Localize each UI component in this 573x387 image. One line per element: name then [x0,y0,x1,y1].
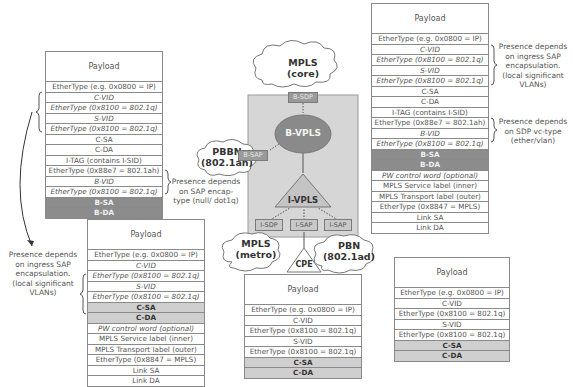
stack-row: C-VID [245,315,361,326]
stack-row: EtherType (0x8100 = 802.1q) [395,329,509,340]
frame-stack-top-left: Payload EtherType (e.g. 0x0800 = IP) C-V… [45,51,163,219]
stack-row: EtherType (0x8100 = 802.1q) [88,270,204,281]
stack-row: EtherType (0x8100 = 802.1q) [46,102,162,113]
frame-stack-top-right: Payload EtherType (e.g. 0x0800 = IP) C-V… [371,3,489,234]
stack-row: S-VID [395,319,509,330]
stack-row: EtherType (e.g. 0x0800 = IP) [372,33,488,44]
stack-row: EtherType (0x8100 = 802.1q) [245,325,361,336]
stack-row: Payload [245,275,361,304]
stack-row: C-DA [395,350,509,361]
i-sap-port-1: I-SAP [290,219,318,231]
frame-stack-bottom-center: Payload EtherType (e.g. 0x0800 = IP) C-V… [244,274,362,379]
stack-row: C-VID [372,44,488,55]
b-sdp-port: B-SDP [288,92,318,103]
stack-row: EtherType (e.g. 0x0800 = IP) [395,287,509,298]
stack-row: C-SA [88,302,204,313]
stack-row: EtherType (0x8100 = 802.1q) [46,123,162,134]
stack-row: MPLS Service label (inner) [88,333,204,344]
stack-row: S-VID [46,113,162,124]
stack-row: Link SA [88,365,204,376]
b-vpls-label: B-VPLS [275,128,331,138]
i-vpls-label: I-VPLS [280,195,326,205]
stack-row: Payload [372,4,488,33]
note-ingress-sap-bottom-left: Presence depends on ingress SAP encapsul… [4,250,82,298]
stack-row: C-VID [88,260,204,271]
stack-row: B-SA [46,197,162,208]
stack-row: B-SA [372,149,488,160]
i-sap-port-2: I-SAP [324,219,352,231]
stack-row: B-DA [372,159,488,170]
stack-row: Payload [88,220,204,249]
stack-row: I-TAG (contains I-SID) [46,155,162,166]
frame-stack-bottom-right: Payload EtherType (e.g. 0x0800 = IP) C-V… [394,257,510,362]
stack-row: C-DA [46,144,162,155]
stack-row: C-SA [46,134,162,145]
stack-row: S-VID [245,336,361,347]
stack-row: EtherType (e.g. 0x0800 = IP) [46,81,162,92]
stack-row: C-VID [395,298,509,309]
stack-row: EtherType (0x8847 = MPLS) [88,354,204,365]
stack-row: EtherType (e.g. 0x0800 = IP) [245,304,361,315]
stack-row: B-VID [372,128,488,139]
stack-row: MPLS Service label (inner) [372,180,488,191]
stack-row: C-SA [395,340,509,351]
frame-stack-bottom-left: Payload EtherType (e.g. 0x0800 = IP) C-V… [87,219,205,387]
stack-row: B-VID [46,176,162,187]
stack-row: EtherType (0x8100 = 802.1q) [372,75,488,86]
stack-row: B-DA [46,207,162,218]
mpls-core-cloud-label: MPLS (core) [272,57,334,79]
stack-row: EtherType (0x8100 = 802.1q) [372,138,488,149]
stack-row: EtherType (0x88e7 = 802.1ah) [46,165,162,176]
stack-row: EtherType (e.g. 0x0800 = IP) [88,249,204,260]
b-sap-port: B-SAP [238,150,268,161]
stack-row: EtherType (0x8100 = 802.1q) [88,291,204,302]
note-ingress-sap-top-right: Presence depends on ingress SAP encapsul… [494,42,572,90]
stack-row: C-SA [372,86,488,97]
stack-row: Link SA [372,212,488,223]
stack-row: EtherType (0x8847 = MPLS) [372,201,488,212]
mpls-metro-cloud-label: MPLS (metro) [225,238,287,260]
stack-row: PW control word (optional) [88,323,204,334]
stack-row: EtherType (0x8100 = 802.1q) [372,54,488,65]
stack-row: C-DA [88,312,204,323]
stack-row: Link DA [88,375,204,386]
stack-row: EtherType (0x8100 = 802.1q) [395,308,509,319]
i-sdp-port: I-SDP [255,219,283,231]
note-sdp-vc-type: Presence depends on SDP vc-type (ether/v… [494,117,572,146]
stack-row: C-VID [46,92,162,103]
stack-row: EtherType (0x8100 = 802.1q) [245,346,361,357]
stack-row: MPLS Transport label (outer) [88,344,204,355]
stack-row: C-SA [245,357,361,368]
stack-row: MPLS Transport label (outer) [372,191,488,202]
cpe-label: CPE [290,260,318,269]
stack-row: EtherType (0x88e7 = 802.1ah) [372,117,488,128]
stack-row: EtherType (0x8100 = 802.1q) [46,186,162,197]
stack-row: C-DA [245,367,361,378]
stack-row: Link DA [372,222,488,233]
stack-row: S-VID [372,65,488,76]
stack-row: I-TAG (contains I-SID) [372,107,488,118]
stack-row: PW control word (optional) [372,170,488,181]
stack-row: Payload [395,258,509,287]
stack-row: C-DA [372,96,488,107]
note-sap-encap: Presence depends on SAP encap- type (nul… [170,177,242,206]
stack-row: Payload [46,52,162,81]
stack-row: S-VID [88,281,204,292]
pbn-cloud-label: PBN (802.1ad) [318,240,380,262]
